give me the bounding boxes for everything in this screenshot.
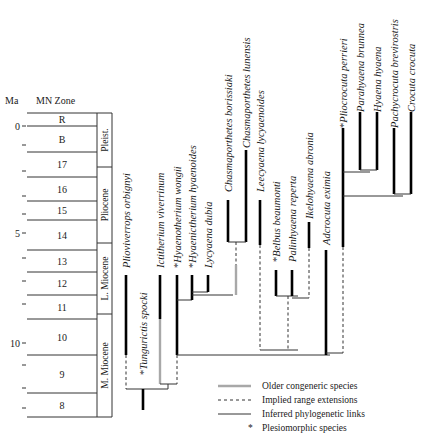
taxon-label: Lycyaena dubia — [203, 202, 214, 269]
zone-label: B — [59, 134, 66, 145]
mn-zone-header: MN Zone — [36, 95, 76, 106]
ma-tick-label: 0 — [15, 121, 20, 132]
ma-ticks: 0510 — [10, 121, 26, 409]
ma-tick-label: 5 — [15, 228, 20, 239]
taxon-name: Plioviverrops orbignyi — [121, 173, 132, 269]
epoch-label: L. Miocene — [100, 257, 110, 301]
zone-label: 11 — [57, 302, 67, 313]
zone-label: 14 — [57, 230, 67, 241]
phylogeny-figure: Ma MN Zone 0510 RB171615141312111098 Ple… — [0, 0, 421, 441]
taxon-label: Crocuta crocuta — [406, 44, 417, 112]
legend-asterisk-icon: * — [248, 423, 253, 433]
zone-label: 16 — [57, 184, 67, 195]
legend: Older congeneric species Implied range e… — [218, 381, 365, 433]
taxon-name: Belbus beaumonti — [271, 181, 282, 257]
zone-label: R — [59, 114, 66, 125]
taxon-name: Hyaena hyaena — [372, 46, 383, 113]
taxon-name: Chasmaporthetes borissiaki — [223, 74, 234, 192]
taxon-name: Adcrocuta eximia — [321, 171, 332, 246]
epoch-label: M. Miocene — [100, 342, 110, 388]
taxon-label: Adcrocuta eximia — [321, 171, 332, 246]
zone-label: 8 — [60, 400, 65, 411]
taxon-name: Tungurictis spocki — [138, 292, 149, 369]
taxon-label: Ictitherium viverrinum — [155, 172, 166, 269]
taxon-name: Crocuta crocuta — [406, 44, 417, 112]
ma-tick-label: 10 — [10, 338, 20, 349]
taxon-name: Parahyaena brunnea — [355, 23, 366, 113]
zone-label: 10 — [57, 332, 67, 343]
taxon-label: Chasmaporthetes lunensis — [241, 37, 252, 148]
taxon-label: *Pliocrocuta perrieri — [338, 38, 349, 128]
phylogenetic-tree — [126, 112, 411, 410]
taxon-label: *Hyaenictherium hyaenoides — [187, 145, 198, 268]
taxon-label: Chasmaporthetes borissiaki — [223, 74, 234, 192]
taxon-label: Ikelohyaena abronia — [304, 132, 315, 220]
taxon-name: Ikelohyaena abronia — [304, 132, 315, 220]
legend-older-label: Older congeneric species — [262, 381, 358, 391]
taxon-name: Palinhyaena reperta — [287, 176, 298, 263]
taxon-name: Leecyaena lycyaenoides — [255, 90, 266, 193]
epoch-label: Pleist. — [100, 128, 110, 152]
epoch-column: Pleist.PlioceneL. MioceneM. Miocene — [97, 113, 112, 417]
taxon-labels: Plioviverrops orbignyi*Tungurictis spock… — [121, 19, 417, 375]
taxon-name: Ictitherium viverrinum — [155, 172, 166, 269]
legend-implied-label: Implied range extensions — [262, 395, 358, 405]
taxon-label: Hyaena hyaena — [372, 46, 383, 113]
phylogeny-svg: Ma MN Zone 0510 RB171615141312111098 Ple… — [0, 0, 421, 441]
taxon-label: *Belbus beaumonti — [271, 181, 282, 262]
epoch-label: Pliocene — [100, 189, 110, 222]
taxon-name: Chasmaporthetes lunensis — [241, 37, 252, 148]
taxon-name: Pliocrocuta perrieri — [338, 38, 349, 124]
taxon-label: Plioviverrops orbignyi — [121, 173, 132, 269]
zone-label: 15 — [57, 205, 67, 216]
taxon-label: Palinhyaena reperta — [287, 176, 298, 263]
taxon-label: *Hyaenotherium wongii — [172, 166, 183, 268]
taxon-label: Leecyaena lycyaenoides — [255, 90, 266, 193]
taxon-label: *Tungurictis spocki — [138, 292, 149, 375]
taxon-name: Hyaenictherium hyaenoides — [187, 145, 198, 264]
zone-label: 17 — [57, 159, 67, 170]
taxon-name: Pachycrocuta brevirostris — [389, 19, 400, 129]
taxon-label: Pachycrocuta brevirostris — [389, 19, 400, 129]
taxon-name: Hyaenotherium wongii — [172, 166, 183, 264]
taxon-name: Lycyaena dubia — [203, 202, 214, 269]
zone-label: 13 — [57, 256, 67, 267]
ma-axis-label: Ma — [5, 95, 19, 106]
zone-label: 12 — [57, 278, 67, 289]
zone-label: 9 — [60, 369, 65, 380]
taxon-label: Parahyaena brunnea — [355, 23, 366, 113]
legend-inferred-label: Inferred phylogenetic links — [262, 409, 365, 419]
legend-plesiomorphic-label: Plesiomorphic species — [262, 423, 347, 433]
